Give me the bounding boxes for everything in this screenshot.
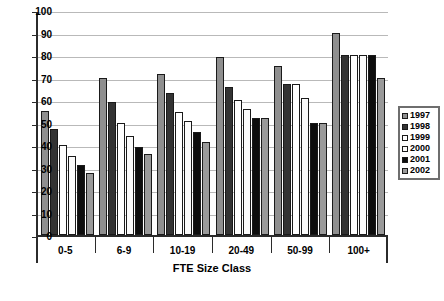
bar <box>225 87 233 236</box>
y-axis-tick-mark <box>32 192 36 193</box>
bar <box>59 145 67 235</box>
bar <box>117 123 125 236</box>
x-axis: 0-56-910-1920-4950-99100+ <box>36 237 388 263</box>
x-axis-separator <box>212 237 213 253</box>
bar <box>332 33 340 236</box>
y-axis-tick-mark <box>32 215 36 216</box>
bar <box>202 142 210 235</box>
bar <box>193 132 201 236</box>
y-axis-tick-mark <box>32 35 36 36</box>
bar <box>301 98 309 235</box>
legend-swatch-icon <box>402 135 408 141</box>
bar <box>243 109 251 235</box>
bar <box>341 55 349 235</box>
y-axis-tick-mark <box>32 237 36 238</box>
bar <box>144 154 152 235</box>
y-axis-tick-mark <box>32 147 36 148</box>
y-axis-tick-label: 10 <box>22 210 52 220</box>
y-axis-tick-mark <box>32 80 36 81</box>
bar <box>166 93 174 235</box>
bar <box>216 57 224 235</box>
bar-group <box>155 12 213 235</box>
y-axis-tick-label: 0 <box>22 232 52 242</box>
y-axis-tick-mark <box>32 125 36 126</box>
bar-group <box>96 12 154 235</box>
y-axis-tick-label: 50 <box>22 120 52 130</box>
bar-group <box>213 12 271 235</box>
legend-label: 2002 <box>410 166 430 175</box>
x-axis-separator <box>329 237 330 253</box>
bar <box>126 136 134 235</box>
x-axis-separator <box>153 237 154 253</box>
legend-item[interactable]: 1997 <box>402 110 436 121</box>
x-axis-category-label: 100+ <box>329 237 388 263</box>
bar <box>184 121 192 235</box>
bar <box>310 123 318 236</box>
bars-layer <box>38 12 388 235</box>
bar <box>319 123 327 236</box>
legend-swatch-icon <box>402 146 408 152</box>
y-axis-tick-mark <box>32 57 36 58</box>
bar <box>377 78 385 236</box>
x-axis-separator <box>95 237 96 253</box>
legend-item[interactable]: 2001 <box>402 154 436 165</box>
bar-group <box>330 12 388 235</box>
legend-label: 2001 <box>410 155 430 164</box>
x-axis-category-label: 6-9 <box>95 237 154 263</box>
y-axis-tick-label: 100 <box>22 7 52 17</box>
y-axis-tick-mark <box>32 170 36 171</box>
legend-item[interactable]: 2002 <box>402 165 436 176</box>
legend-label: 1998 <box>410 122 430 131</box>
x-axis-category-label: 50-99 <box>271 237 330 263</box>
legend-swatch-icon <box>402 124 408 130</box>
legend-swatch-icon <box>402 113 408 119</box>
bar <box>77 165 85 235</box>
x-axis-separator <box>271 237 272 253</box>
bar <box>292 84 300 235</box>
x-axis-category-label: 10-19 <box>153 237 212 263</box>
y-axis-tick-label: 40 <box>22 142 52 152</box>
legend-item[interactable]: 1999 <box>402 132 436 143</box>
legend-swatch-icon <box>402 157 408 163</box>
y-axis-tick-label: 60 <box>22 97 52 107</box>
legend-label: 1997 <box>410 111 430 120</box>
bar <box>86 173 94 235</box>
bar <box>234 100 242 235</box>
bar <box>175 112 183 235</box>
y-axis-tick-mark <box>32 12 36 13</box>
bar <box>99 78 107 236</box>
y-axis-tick-mark <box>32 102 36 103</box>
x-axis-title: FTE Size Class <box>36 262 388 274</box>
bar <box>157 74 165 235</box>
y-axis-tick-label: 80 <box>22 52 52 62</box>
bar <box>274 66 282 235</box>
y-axis-tick-label: 70 <box>22 75 52 85</box>
bar <box>350 55 358 235</box>
legend-swatch-icon <box>402 168 408 174</box>
legend: 199719981999200020012002 <box>398 106 440 180</box>
bar-group <box>271 12 329 235</box>
bar <box>135 147 143 235</box>
legend-item[interactable]: 1998 <box>402 121 436 132</box>
bar <box>252 118 260 235</box>
legend-label: 2000 <box>410 144 430 153</box>
bar <box>283 84 291 235</box>
bar <box>68 156 76 235</box>
y-axis-tick-label: 90 <box>22 30 52 40</box>
legend-item[interactable]: 2000 <box>402 143 436 154</box>
bar <box>368 55 376 235</box>
legend-label: 1999 <box>410 133 430 142</box>
bar <box>359 55 367 235</box>
y-axis-tick-label: 30 <box>22 165 52 175</box>
y-axis-tick-label: 20 <box>22 187 52 197</box>
x-axis-category-label: 20-49 <box>212 237 271 263</box>
bar-chart: 0-56-910-1920-4950-99100+ FTE Size Class… <box>0 0 444 301</box>
bar <box>108 102 116 235</box>
bar <box>261 118 269 235</box>
